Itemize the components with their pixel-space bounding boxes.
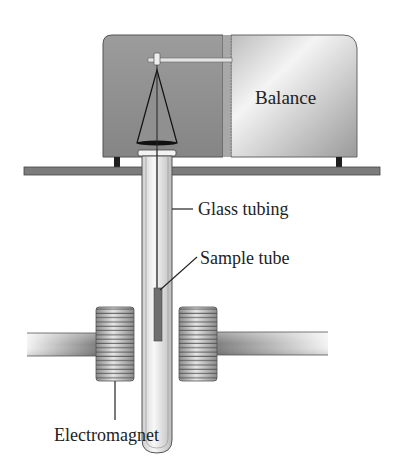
balance-label: Balance [255, 87, 316, 108]
balance-foot-right [336, 157, 342, 167]
coil-left [96, 307, 134, 381]
electromagnet [27, 307, 328, 381]
electromagnet-label: Electromagnet [54, 425, 159, 445]
balance-housing [103, 35, 357, 167]
shelf [24, 167, 380, 175]
balance-foot-left [114, 157, 120, 167]
gouy-balance-diagram: Balance Glass tubing Sample tube Electro… [0, 0, 411, 467]
glass-tubing-label: Glass tubing [198, 199, 289, 219]
coil-right [179, 307, 217, 381]
sample-tube [154, 288, 162, 341]
sample-tube-label: Sample tube [200, 248, 289, 268]
